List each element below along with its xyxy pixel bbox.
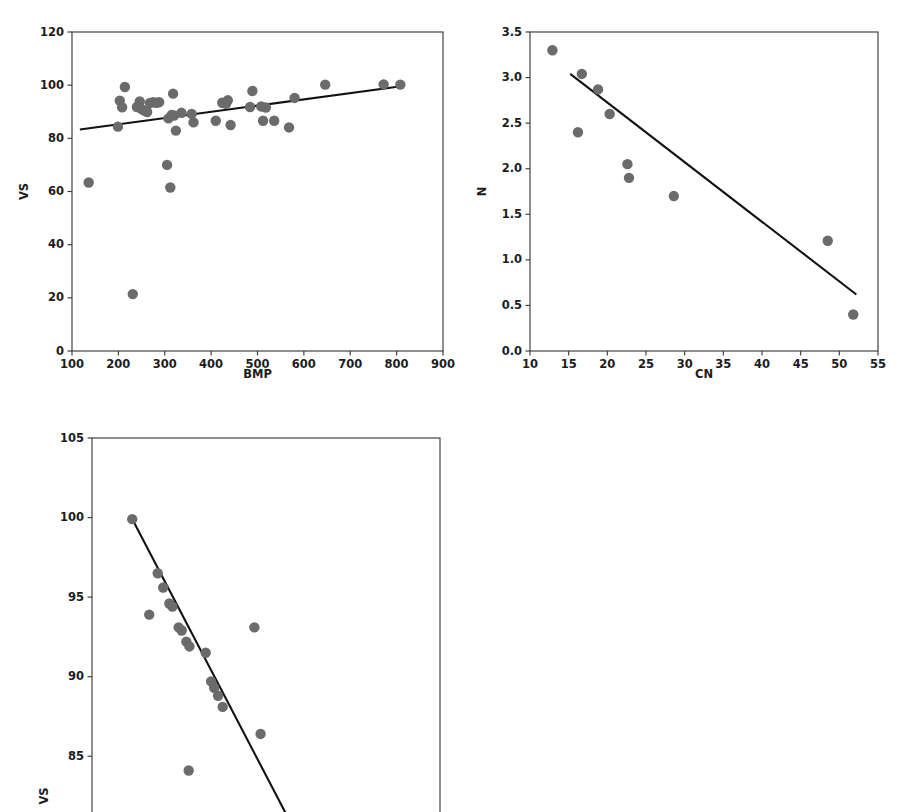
axes-frame bbox=[92, 438, 440, 812]
data-point bbox=[223, 95, 233, 105]
x-tick-label: 900 bbox=[431, 357, 455, 371]
y-tick-label: 90 bbox=[68, 669, 84, 683]
x-tick-label: 45 bbox=[793, 357, 809, 371]
data-point bbox=[217, 702, 227, 712]
y-tick-label: 100 bbox=[60, 510, 84, 524]
data-point bbox=[604, 109, 614, 119]
data-point bbox=[848, 309, 858, 319]
data-point bbox=[284, 122, 294, 132]
x-tick-label: 55 bbox=[870, 357, 886, 371]
y-tick-label: 1.5 bbox=[502, 207, 522, 221]
y-tick-label: 80 bbox=[48, 131, 64, 145]
data-point bbox=[83, 177, 93, 187]
data-point bbox=[183, 765, 193, 775]
data-point bbox=[395, 79, 405, 89]
y-tick-label: 0.0 bbox=[502, 344, 522, 358]
y-axis-title: VS bbox=[37, 787, 51, 804]
data-point bbox=[289, 93, 299, 103]
x-tick-label: 25 bbox=[638, 357, 654, 371]
y-tick-label: 105 bbox=[60, 431, 84, 445]
data-point bbox=[213, 691, 223, 701]
x-tick-label: 30 bbox=[677, 357, 693, 371]
x-tick-label: 300 bbox=[153, 357, 177, 371]
data-point bbox=[593, 84, 603, 94]
data-point bbox=[245, 102, 255, 112]
data-point bbox=[255, 729, 265, 739]
data-point bbox=[378, 79, 388, 89]
data-point bbox=[669, 191, 679, 201]
regression-fit-line bbox=[131, 518, 402, 812]
y-axis-title: VS bbox=[17, 183, 31, 200]
data-point bbox=[117, 102, 127, 112]
data-point bbox=[320, 79, 330, 89]
data-point bbox=[171, 125, 181, 135]
data-point bbox=[168, 88, 178, 98]
x-tick-label: 100 bbox=[60, 357, 84, 371]
plot-area-panel-bmp: 1002003004005006007008009000204060801001… bbox=[0, 0, 460, 400]
data-point bbox=[177, 625, 187, 635]
data-point bbox=[624, 173, 634, 183]
x-tick-label: 50 bbox=[831, 357, 847, 371]
y-tick-label: 2.5 bbox=[502, 116, 522, 130]
y-tick-label: 3.0 bbox=[502, 70, 522, 84]
data-point bbox=[120, 82, 130, 92]
x-tick-label: 600 bbox=[292, 357, 316, 371]
data-point bbox=[154, 97, 164, 107]
data-point bbox=[547, 45, 557, 55]
chart-panel-sa-vs: −505101520253035406065707580859095100105… bbox=[0, 410, 460, 812]
axes-frame bbox=[530, 32, 878, 351]
y-tick-label: 40 bbox=[48, 237, 64, 251]
x-tick-label: 700 bbox=[338, 357, 362, 371]
y-tick-label: 95 bbox=[68, 590, 84, 604]
data-point bbox=[211, 116, 221, 126]
regression-fit-line bbox=[80, 86, 401, 129]
data-point bbox=[225, 120, 235, 130]
x-tick-label: 35 bbox=[715, 357, 731, 371]
y-tick-label: 0.5 bbox=[502, 298, 522, 312]
chart-panel-cn-n: 101520253035404550550.00.51.01.52.02.53.… bbox=[460, 0, 907, 400]
x-tick-label: 10 bbox=[522, 357, 538, 371]
data-point bbox=[184, 641, 194, 651]
data-point bbox=[258, 116, 268, 126]
data-point bbox=[249, 622, 259, 632]
x-tick-label: 400 bbox=[199, 357, 223, 371]
data-point bbox=[176, 108, 186, 118]
x-tick-label: 200 bbox=[106, 357, 130, 371]
plot-area-panel-sa: −505101520253035406065707580859095100105… bbox=[0, 410, 460, 812]
y-axis-title: N bbox=[475, 187, 489, 197]
data-point bbox=[128, 289, 138, 299]
x-tick-label: 800 bbox=[385, 357, 409, 371]
y-tick-label: 100 bbox=[40, 78, 64, 92]
axes-frame bbox=[72, 32, 443, 351]
data-point bbox=[573, 127, 583, 137]
data-point bbox=[162, 160, 172, 170]
data-point bbox=[188, 117, 198, 127]
data-point bbox=[153, 568, 163, 578]
x-tick-label: 20 bbox=[599, 357, 615, 371]
data-point bbox=[167, 601, 177, 611]
plot-area-panel-cn: 101520253035404550550.00.51.01.52.02.53.… bbox=[460, 0, 907, 400]
y-tick-label: 1.0 bbox=[502, 252, 522, 266]
x-axis-title: BMP bbox=[243, 367, 272, 381]
data-point bbox=[165, 182, 175, 192]
y-tick-label: 3.5 bbox=[502, 25, 522, 39]
y-tick-label: 2.0 bbox=[502, 161, 522, 175]
x-tick-label: 40 bbox=[754, 357, 770, 371]
scatter-plot-figure: 1002003004005006007008009000204060801001… bbox=[0, 0, 907, 812]
data-point bbox=[622, 159, 632, 169]
chart-panel-bmp-vs: 1002003004005006007008009000204060801001… bbox=[0, 0, 460, 400]
data-point bbox=[144, 609, 154, 619]
data-point bbox=[113, 121, 123, 131]
data-point bbox=[158, 582, 168, 592]
data-point bbox=[247, 86, 257, 96]
y-tick-label: 0 bbox=[56, 344, 64, 358]
data-point bbox=[127, 514, 137, 524]
regression-fit-line bbox=[570, 74, 856, 295]
data-point bbox=[261, 102, 271, 112]
data-point bbox=[823, 236, 833, 246]
y-tick-label: 85 bbox=[68, 749, 84, 763]
y-tick-label: 120 bbox=[40, 25, 64, 39]
y-tick-label: 60 bbox=[48, 184, 64, 198]
x-tick-label: 15 bbox=[561, 357, 577, 371]
data-point bbox=[200, 648, 210, 658]
